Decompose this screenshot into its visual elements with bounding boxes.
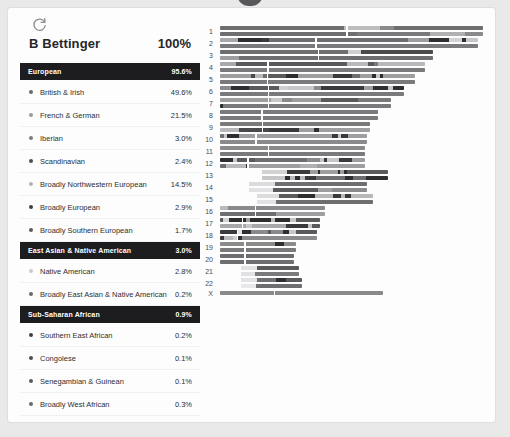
ancestry-group-value: 0.9% (175, 311, 192, 318)
ancestry-segment (429, 38, 450, 42)
chromosome-label: 10 (204, 136, 220, 143)
chromosome-row[interactable]: 16 (204, 206, 490, 217)
ancestry-segment (220, 152, 365, 156)
ancestry-subpopulation-value: 2.8% (175, 267, 192, 276)
chromosome-row[interactable]: 11 (204, 146, 490, 157)
ancestry-subpopulation-value: 2.4% (175, 157, 192, 166)
centromere-marker (255, 212, 257, 216)
ancestry-subpopulation-row[interactable]: Senegambian & Guinean0.1% (20, 370, 200, 393)
chromosome-row[interactable]: 9 (204, 122, 490, 133)
ancestry-segment (257, 200, 277, 204)
ancestry-subpopulation-row[interactable]: Broadly Northwestern European14.5% (20, 173, 200, 196)
chromosome-strand-bar (220, 62, 425, 66)
ancestry-segment (307, 158, 320, 162)
centromere-marker (261, 116, 263, 120)
ancestry-subpopulation-row[interactable]: Iberian3.0% (20, 127, 200, 150)
chromosome-row[interactable]: 5 (204, 74, 490, 85)
ancestry-segment (312, 224, 320, 228)
ancestry-subpopulation-row[interactable]: Native American2.8% (20, 260, 200, 283)
ancestry-subpopulation-row[interactable]: Southern East African0.2% (20, 324, 200, 347)
ancestry-subpopulation-row[interactable]: Broadly Sub-Saharan African0.2% (20, 416, 200, 422)
chromosome-label: 5 (204, 76, 220, 83)
chromosome-row[interactable]: 1 (204, 26, 490, 37)
ancestry-segment (347, 170, 389, 174)
ancestry-subpopulation-value: 14.5% (171, 180, 192, 189)
ancestry-segment (351, 194, 373, 198)
chromosome-row[interactable]: 2 (204, 38, 490, 49)
ancestry-subpopulation-value: 0.2% (175, 331, 192, 340)
ancestry-group-header[interactable]: European95.6% (20, 63, 200, 80)
ancestry-group-header[interactable]: Sub-Saharan African0.9% (20, 306, 200, 323)
ancestry-segment (273, 188, 318, 192)
chromosome-strand-bar (220, 248, 296, 252)
ancestry-subpopulation-label: Broadly East Asian & Native American (40, 290, 175, 299)
chromosome-row[interactable]: 12 (204, 158, 490, 169)
chromosome-row[interactable]: 21 (204, 266, 490, 277)
chromosome-label: 15 (204, 196, 220, 203)
ancestry-segment (345, 176, 353, 180)
chromosome-strand-bar (220, 110, 378, 114)
ancestry-segment (394, 26, 483, 30)
ancestry-subpopulation-value: 0.2% (175, 290, 192, 299)
chromosome-row[interactable]: 15 (204, 194, 490, 205)
centromere-marker (255, 140, 257, 144)
ancestry-segment (321, 86, 363, 90)
ancestry-subpopulation-row[interactable]: Broadly Southern European1.7% (20, 219, 200, 242)
chromosome-row[interactable]: X (204, 290, 490, 297)
ancestry-subpopulation-row[interactable]: French & German21.5% (20, 104, 200, 127)
chromosome-row[interactable]: 10 (204, 134, 490, 145)
centromere-marker (244, 248, 246, 252)
chromosome-row[interactable]: 6 (204, 86, 490, 97)
chromosome-strand-bar (220, 116, 378, 120)
chromosome-row[interactable]: 19 (204, 242, 490, 253)
ancestry-segment (284, 242, 296, 246)
ancestry-segment (352, 74, 360, 78)
chromosome-row[interactable]: 7 (204, 98, 490, 109)
chromosome-row[interactable]: 18 (204, 230, 490, 241)
ancestry-segment (275, 218, 290, 222)
ancestry-subpopulation-label: Congolese (40, 354, 175, 363)
chromosome-bars (220, 134, 490, 145)
ancestry-subpopulation-row[interactable]: Congolese0.1% (20, 347, 200, 370)
chromosome-label: 22 (204, 280, 220, 287)
ancestry-subpopulation-row[interactable]: Broadly East Asian & Native American0.2% (20, 283, 200, 306)
ancestry-subpopulation-row[interactable]: Scandinavian2.4% (20, 150, 200, 173)
ancestry-segment (276, 200, 372, 204)
ancestry-segment (286, 278, 302, 282)
ancestry-segment (256, 284, 301, 288)
ancestry-segment (239, 134, 332, 138)
ancestry-group-label: East Asian & Native American (28, 247, 131, 254)
chromosome-row[interactable]: 14 (204, 182, 490, 193)
chromosome-label: 3 (204, 52, 220, 59)
chromosome-label: 17 (204, 220, 220, 227)
chromosome-row[interactable]: 4 (204, 62, 490, 73)
population-color-dot-icon (29, 182, 33, 186)
ancestry-segment (220, 116, 378, 120)
ancestry-subpopulation-row[interactable]: Broadly European2.9% (20, 196, 200, 219)
ancestry-segment (344, 26, 381, 30)
chromosome-row[interactable]: 17 (204, 218, 490, 229)
ancestry-subpopulation-row[interactable]: British & Irish49.6% (20, 81, 200, 104)
ancestry-group-header[interactable]: East Asian & Native American3.0% (20, 242, 200, 259)
ancestry-subpopulation-value: 0.3% (175, 400, 192, 409)
chromosome-row[interactable]: 3 (204, 50, 490, 61)
ancestry-segment (257, 266, 299, 270)
ancestry-segment (310, 170, 318, 174)
centromere-marker (274, 291, 276, 295)
chromosome-row[interactable]: 20 (204, 254, 490, 265)
ancestry-segment (317, 164, 365, 168)
chromosome-row[interactable]: 8 (204, 110, 490, 121)
chromosome-row[interactable]: 22 (204, 278, 490, 289)
ancestry-subpopulation-row[interactable]: Broadly West African0.3% (20, 393, 200, 416)
ancestry-segment (220, 92, 404, 96)
centromere-marker (237, 230, 239, 234)
chromosome-strand-bar (220, 86, 404, 90)
ancestry-segment (220, 206, 228, 210)
ancestry-subpopulation-value: 0.1% (175, 354, 192, 363)
ancestry-segment (239, 56, 433, 60)
ancestry-segment (250, 218, 271, 222)
ancestry-segment (220, 26, 344, 30)
centromere-marker (346, 32, 348, 36)
chromosome-strand-bar (220, 218, 320, 222)
chromosome-row[interactable]: 13 (204, 170, 490, 181)
